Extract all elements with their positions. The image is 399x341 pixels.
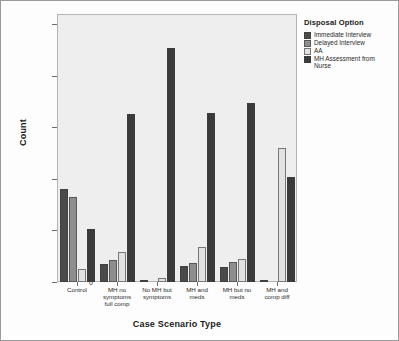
bar (167, 48, 175, 282)
bar (180, 266, 188, 282)
bar (247, 103, 255, 282)
x-tick-label: No MH but symptoms (137, 286, 177, 300)
bar (60, 189, 68, 282)
chart-figure: Count 050100150200250 ControlMH no sympt… (0, 0, 399, 341)
bar (87, 229, 95, 282)
x-tick-label: MH no symptoms full comp (97, 286, 137, 308)
bar (100, 264, 108, 282)
bar (189, 263, 197, 282)
bar-group (57, 14, 97, 282)
bar (78, 269, 86, 282)
legend-swatch (304, 32, 311, 39)
bar (287, 177, 295, 282)
x-tick-label: MH and meds (177, 286, 217, 300)
legend-item: MH Assessment from Nurse (304, 55, 396, 70)
x-axis-title: Case Scenario Type (57, 319, 297, 329)
legend-item: AA (304, 47, 396, 55)
bar (140, 280, 148, 282)
x-axis-tick-labels: ControlMH no symptoms full compNo MH but… (57, 286, 297, 314)
x-tick-label: MH and comp diff (257, 286, 297, 300)
legend-label: AA (314, 47, 323, 54)
legend-label: Delayed Interview (314, 39, 365, 46)
y-tick-mark (52, 282, 57, 283)
x-tick-label: MH but no meds (217, 286, 257, 300)
legend-item: Delayed Interview (304, 39, 396, 47)
legend-swatch (304, 48, 311, 55)
legend-items: Immediate InterviewDelayed InterviewAAMH… (304, 31, 396, 70)
bar (198, 247, 206, 282)
bar (238, 259, 246, 282)
legend-label: Immediate Interview (314, 31, 371, 38)
x-tick-label: Control (57, 286, 97, 293)
bar-group (97, 14, 137, 282)
y-axis-title: Count (18, 130, 28, 146)
bar (158, 278, 166, 282)
bar (220, 267, 228, 282)
bar (207, 113, 215, 282)
bar (229, 262, 237, 282)
bar (109, 260, 117, 282)
legend-swatch (304, 56, 311, 63)
bar (69, 197, 77, 282)
bar-group (137, 14, 177, 282)
legend-title: Disposal Option (304, 18, 396, 27)
legend-label: MH Assessment from Nurse (314, 55, 375, 70)
bar-group (177, 14, 217, 282)
bar-group (257, 14, 297, 282)
bar (127, 114, 135, 282)
legend-swatch (304, 40, 311, 47)
legend: Disposal Option Immediate InterviewDelay… (304, 18, 396, 70)
bar (260, 280, 268, 282)
bar-group (217, 14, 257, 282)
bars-layer (57, 14, 297, 282)
bar (278, 148, 286, 282)
bar (118, 252, 126, 282)
legend-item: Immediate Interview (304, 31, 396, 39)
